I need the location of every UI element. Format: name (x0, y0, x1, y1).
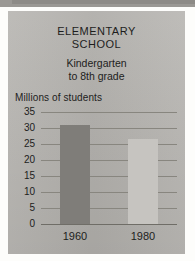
y-tick-label: 15 (13, 171, 35, 181)
gridline (90, 176, 128, 177)
gridline (90, 144, 128, 145)
y-tick-label: 0 (13, 219, 35, 229)
scan-top-band (0, 0, 195, 7)
y-tick-label: 10 (13, 187, 35, 197)
y-tick-label: 30 (13, 123, 35, 133)
gridline (158, 208, 177, 209)
bar-1980 (128, 139, 158, 224)
gridline (41, 112, 177, 113)
chart-figure: ELEMENTARY SCHOOL Kindergarten to 8th gr… (8, 11, 185, 254)
gridline (90, 208, 128, 209)
x-tick-label-1960: 1960 (52, 230, 98, 242)
y-tick-label: 5 (13, 203, 35, 213)
gridline (90, 128, 177, 129)
gridline (90, 160, 128, 161)
y-tick-label: 35 (13, 107, 35, 117)
gridline (158, 144, 177, 145)
gridline (158, 176, 177, 177)
gridline (41, 208, 60, 209)
bar-1960 (60, 125, 90, 224)
x-tick-label-1980: 1980 (120, 230, 166, 242)
y-tick-label: 20 (13, 155, 35, 165)
gridline (41, 144, 60, 145)
y-tick-label: 25 (13, 139, 35, 149)
gridline (41, 128, 60, 129)
scan-top-band-inner (12, 0, 195, 4)
scanned-page: ELEMENTARY SCHOOL Kindergarten to 8th gr… (0, 0, 195, 261)
gridline (41, 160, 60, 161)
gridline (158, 160, 177, 161)
x-axis-baseline (41, 224, 177, 225)
gridline (41, 192, 60, 193)
gridline (158, 192, 177, 193)
plot-area: 3530252015105019601980 (8, 11, 185, 254)
gridline (90, 192, 128, 193)
gridline (41, 176, 60, 177)
